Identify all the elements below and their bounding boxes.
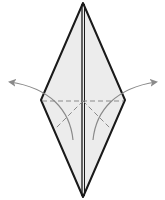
origami-diagram <box>0 0 165 200</box>
diagram-canvas <box>0 0 165 200</box>
